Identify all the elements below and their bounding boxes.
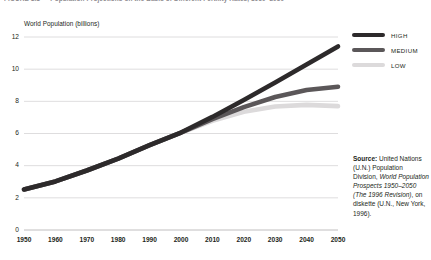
chart-legend: HIGHMEDIUMLOW bbox=[352, 29, 430, 74]
x-tick-label: 2000 bbox=[174, 237, 189, 244]
x-tick-label: 2030 bbox=[268, 237, 283, 244]
source-note: Source: United Nations (U.N.) Population… bbox=[353, 154, 429, 218]
x-tick-label: 2020 bbox=[236, 237, 251, 244]
y-tick-label: 8 bbox=[3, 98, 19, 105]
legend-item-low[interactable]: LOW bbox=[352, 59, 430, 71]
x-tick-label: 2050 bbox=[331, 237, 346, 244]
figure-root: FIGURE 1.1 — Population Projections on t… bbox=[0, 0, 431, 260]
y-tick-label: 12 bbox=[3, 34, 19, 41]
y-tick-label: 0 bbox=[3, 227, 19, 234]
y-tick-label: 4 bbox=[3, 162, 19, 169]
legend-label: HIGH bbox=[391, 32, 408, 39]
x-tick-label: 2010 bbox=[205, 237, 220, 244]
legend-item-medium[interactable]: MEDIUM bbox=[352, 44, 430, 56]
x-tick-label: 1960 bbox=[48, 237, 63, 244]
x-tick-label: 2040 bbox=[299, 237, 314, 244]
legend-label: LOW bbox=[391, 62, 406, 69]
legend-item-high[interactable]: HIGH bbox=[352, 29, 430, 41]
legend-swatch-low bbox=[352, 63, 385, 67]
x-tick-label: 1990 bbox=[142, 237, 157, 244]
chart-plot-area bbox=[24, 37, 338, 230]
series-line-high bbox=[24, 46, 338, 189]
data-series-group bbox=[24, 46, 338, 189]
y-tick-label: 6 bbox=[3, 130, 19, 137]
legend-label: MEDIUM bbox=[391, 47, 418, 54]
chart-svg bbox=[24, 37, 338, 230]
y-axis-caption: World Population (billions) bbox=[24, 20, 99, 27]
y-tick-label: 2 bbox=[3, 195, 19, 202]
x-tick-label: 1980 bbox=[111, 237, 126, 244]
y-tick-label: 10 bbox=[3, 66, 19, 73]
figure-title: FIGURE 1.1 — Population Projections on t… bbox=[4, 0, 424, 4]
legend-swatch-medium bbox=[352, 48, 385, 52]
x-tick-label: 1970 bbox=[79, 237, 94, 244]
source-label: Source: bbox=[353, 155, 377, 162]
x-tick-label: 1950 bbox=[17, 237, 32, 244]
legend-swatch-high bbox=[352, 33, 385, 37]
